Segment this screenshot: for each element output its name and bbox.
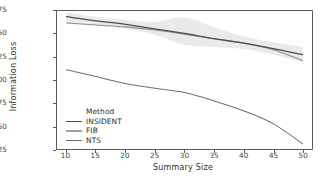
y-tick-label: 0.825 <box>0 146 7 153</box>
legend-title: Method <box>86 108 122 115</box>
legend-swatch-fib <box>66 130 82 132</box>
y-tick-mark <box>53 150 56 151</box>
x-tick-mark <box>214 150 215 153</box>
y-tick-label: 0.900 <box>0 76 7 83</box>
legend-item-insident[interactable]: INSIDENT <box>66 117 122 127</box>
x-tick-mark <box>244 150 245 153</box>
x-tick-mark <box>155 150 156 153</box>
x-tick-mark <box>274 150 275 153</box>
legend-item-fib[interactable]: FIB <box>66 126 122 136</box>
y-tick-label: 0.975 <box>0 6 7 13</box>
x-tick-mark <box>303 150 304 153</box>
x-tick-mark <box>95 150 96 153</box>
legend: Method INSIDENT FIB NTS <box>66 108 122 145</box>
legend-label-fib: FIB <box>86 127 98 134</box>
chart-figure: 0.825 0.850 0.875 0.900 0.925 0.950 0.97… <box>0 0 326 182</box>
x-tick-mark <box>66 150 67 153</box>
legend-swatch-nts <box>66 140 82 142</box>
legend-label-nts: NTS <box>86 137 101 144</box>
legend-swatch-insident <box>66 121 82 123</box>
x-tick-mark <box>184 150 185 153</box>
legend-label-insident: INSIDENT <box>86 118 122 125</box>
y-axis-label: Information Loss <box>9 17 18 137</box>
x-axis-label: Summary Size <box>153 163 213 172</box>
y-tick-label: 0.875 <box>0 100 7 107</box>
x-tick-label: 50 <box>283 152 323 159</box>
confidence-band <box>66 12 302 62</box>
legend-item-nts[interactable]: NTS <box>66 136 122 146</box>
x-tick-mark <box>125 150 126 153</box>
x-axis-label-container: Summary Size <box>0 163 326 172</box>
y-tick-label: 0.850 <box>0 123 7 130</box>
y-tick-label: 0.950 <box>0 30 7 37</box>
y-tick-label: 0.925 <box>0 53 7 60</box>
